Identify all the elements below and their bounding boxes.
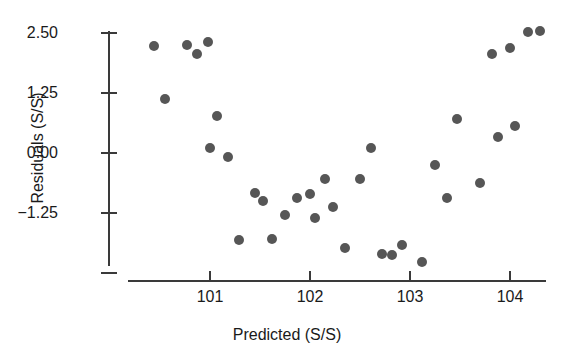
x-tick-1 [309,271,311,282]
data-point [305,189,315,199]
data-point [387,250,397,260]
x-tick-label-1: 102 [280,288,340,306]
x-tick-label-0: 101 [180,288,240,306]
data-point [535,26,545,36]
data-point [377,249,387,259]
data-point [160,94,170,104]
x-tick-0 [209,271,211,282]
data-point [267,234,277,244]
y-tick-label-0: 2.50 [27,25,58,41]
y-tick-3 [101,212,117,214]
data-point [328,202,338,212]
x-tick-label-3: 104 [480,288,540,306]
data-point [234,235,244,245]
x-tick-label-2: 103 [380,288,440,306]
y-tick-4 [101,272,117,274]
data-point [258,196,268,206]
data-point [149,41,159,51]
y-tick-2 [101,152,117,154]
y-axis-title: Residuals (S/S) [29,48,47,248]
data-point [205,143,215,153]
data-point [442,193,452,203]
data-point [366,143,376,153]
data-point [182,40,192,50]
data-point [203,37,213,47]
data-point [192,49,202,59]
data-point [340,243,350,253]
x-tick-3 [509,271,511,282]
data-point [452,114,462,124]
y-tick-1 [101,92,117,94]
data-point [475,178,485,188]
data-point [292,193,302,203]
data-point [223,152,233,162]
data-point [523,27,533,37]
data-point [280,210,290,220]
data-point [505,43,515,53]
x-tick-2 [409,271,411,282]
data-point [310,213,320,223]
data-point [355,174,365,184]
scatter-plot-figure: 2.501.250.00−1.25 101102103104 Residuals… [0,0,574,359]
data-point [397,240,407,250]
y-tick-0 [101,32,117,34]
data-point [212,111,222,121]
data-point [510,121,520,131]
x-axis-spine [128,280,546,282]
y-axis-spine [108,31,110,266]
data-point [430,160,440,170]
data-point [487,49,497,59]
data-point [417,257,427,267]
data-point [320,174,330,184]
x-axis-title: Predicted (S/S) [0,326,574,344]
data-point [493,132,503,142]
